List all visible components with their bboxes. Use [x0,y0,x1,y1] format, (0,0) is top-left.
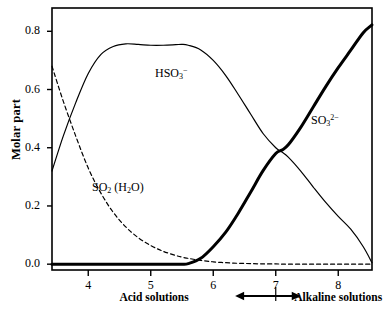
plot-frame-rect [52,8,372,270]
series-curve-so3-2- [52,25,372,264]
y-tick-label: 0.4 [4,140,40,155]
x-tick-label: 6 [200,278,226,293]
arrow-head-left [235,292,244,300]
so2-water-open: (H [111,180,127,194]
so3-text: SO [311,113,326,127]
series-paths [52,25,372,264]
hso3-superscript: − [183,66,188,75]
y-tick-label: 0.2 [4,198,40,213]
series-label-hso3: HSO3− [155,66,188,81]
series-curve-hso3- [52,44,372,263]
chart-figure: Molar part 0.00.20.40.60.8 45678 HSO3− S… [0,0,390,312]
series-curve-so2-h2o- [52,66,372,264]
x-axis-ticks [88,270,338,276]
acid-solutions-label: Acid solutions [119,291,188,303]
plot-frame [52,8,372,270]
series-label-so2: SO2 (H2O) [92,180,144,195]
hso3-text: HSO [155,66,179,80]
x-tick-label: 7 [263,278,289,293]
series-label-so3: SO32− [311,113,339,128]
so2-water-close: O) [131,180,144,194]
so2-text: SO [92,180,107,194]
y-tick-label: 0.6 [4,82,40,97]
y-tick-label: 0.0 [4,256,40,271]
chart-canvas [0,0,390,312]
so3-superscript: 2− [330,113,339,122]
y-tick-label: 0.8 [4,23,40,38]
alkaline-solutions-label: Alkaline solutions [294,291,382,303]
x-tick-label: 4 [75,278,101,293]
y-axis-title: Molar part [9,83,24,177]
